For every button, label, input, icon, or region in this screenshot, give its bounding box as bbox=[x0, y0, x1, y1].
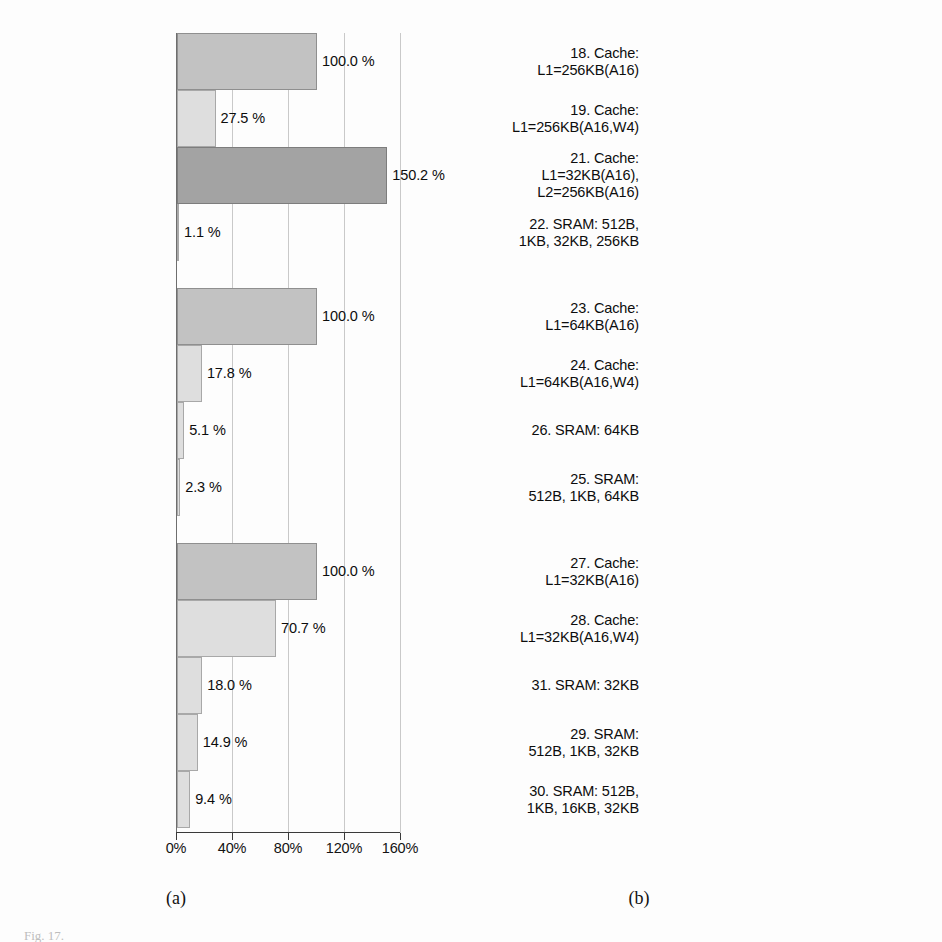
category-label: 27. Cache: L1=32KB(A16) bbox=[409, 555, 639, 589]
bar-value-label: 27.5 % bbox=[221, 110, 266, 126]
bar bbox=[177, 33, 317, 90]
bar bbox=[177, 714, 198, 771]
category-label: 30. SRAM: 512B, 1KB, 16KB, 32KB bbox=[409, 783, 639, 817]
category-label: 26. SRAM: 64KB bbox=[409, 422, 639, 439]
panel-caption-b: (b) bbox=[629, 888, 650, 909]
bar-value-label: 18.0 % bbox=[207, 677, 252, 693]
category-label: 24. Cache: L1=64KB(A16,W4) bbox=[409, 357, 639, 391]
bar-value-label: 70.7 % bbox=[281, 620, 326, 636]
axis-tick bbox=[232, 833, 233, 840]
bar bbox=[177, 600, 276, 657]
category-label: 29. SRAM: 512B, 1KB, 32KB bbox=[409, 726, 639, 760]
bar-value-label: 17.8 % bbox=[207, 365, 252, 381]
category-label: 18. Cache: L1=256KB(A16) bbox=[409, 45, 639, 79]
gridline bbox=[400, 33, 401, 833]
panel-caption-a: (a) bbox=[166, 888, 186, 909]
bar bbox=[177, 90, 216, 147]
axis-tick-label: 80% bbox=[274, 840, 302, 856]
figure-root: (a) 0%40%80%120%160%100.0 %18. Cache: L1… bbox=[0, 0, 942, 942]
chart-panel-b: (b) 0%25%50%75%100%125%150%100.0 %18. Ca… bbox=[471, 0, 942, 942]
bar bbox=[177, 402, 184, 459]
category-label: 21. Cache: L1=32KB(A16), L2=256KB(A16) bbox=[409, 150, 639, 201]
bar-value-label: 1.1 % bbox=[184, 224, 221, 240]
axis-tick-label: 0% bbox=[166, 840, 187, 856]
chart-panel-a: (a) 0%40%80%120%160%100.0 %18. Cache: L1… bbox=[0, 0, 471, 942]
bar bbox=[177, 657, 202, 714]
bar bbox=[177, 147, 387, 204]
category-label: 31. SRAM: 32KB bbox=[409, 677, 639, 694]
figure-caption: Fig. 17. bbox=[24, 928, 64, 942]
bar bbox=[177, 771, 190, 828]
category-label: 28. Cache: L1=32KB(A16,W4) bbox=[409, 612, 639, 646]
axis-tick bbox=[176, 833, 177, 840]
axis-tick bbox=[288, 833, 289, 840]
axis-tick-label: 40% bbox=[218, 840, 246, 856]
bar bbox=[177, 345, 202, 402]
bar bbox=[177, 204, 179, 261]
category-label: 23. Cache: L1=64KB(A16) bbox=[409, 300, 639, 334]
category-label: 25. SRAM: 512B, 1KB, 64KB bbox=[409, 471, 639, 505]
bar-value-label: 2.3 % bbox=[185, 479, 222, 495]
axis-tick bbox=[400, 833, 401, 840]
axis-tick-label: 120% bbox=[326, 840, 362, 856]
bar-value-label: 100.0 % bbox=[322, 563, 375, 579]
bar-value-label: 100.0 % bbox=[322, 53, 375, 69]
axis-tick-label: 160% bbox=[382, 840, 418, 856]
category-label: 19. Cache: L1=256KB(A16,W4) bbox=[409, 102, 639, 136]
bar bbox=[177, 543, 317, 600]
category-label: 22. SRAM: 512B, 1KB, 32KB, 256KB bbox=[409, 216, 639, 250]
bar bbox=[177, 288, 317, 345]
bar-value-label: 5.1 % bbox=[189, 422, 226, 438]
axis-tick bbox=[344, 833, 345, 840]
bar-value-label: 100.0 % bbox=[322, 308, 375, 324]
bar-value-label: 14.9 % bbox=[203, 734, 248, 750]
bar bbox=[177, 459, 180, 516]
bar-value-label: 9.4 % bbox=[195, 791, 232, 807]
x-axis-line bbox=[176, 832, 400, 833]
